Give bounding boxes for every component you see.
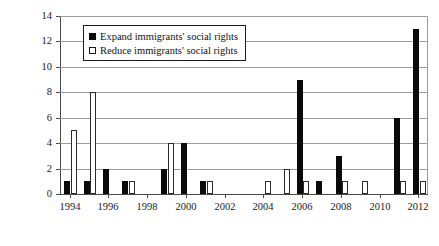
x-tick-label: 2006 [282,201,322,212]
x-tick-mark [341,194,342,198]
x-tick-mark [380,194,381,198]
x-tick-label: 1996 [88,201,128,212]
x-tick-mark [263,194,264,198]
bar-expand-2006 [297,80,303,194]
x-tick-label: 2004 [243,201,283,212]
y-tick-mark [56,67,60,68]
x-tick-label: 1998 [127,201,167,212]
y-tick-label: 4 [28,138,52,148]
x-tick-mark [70,194,71,198]
bar-reduce-2001 [207,181,213,194]
bar-reduce-1995 [90,92,96,194]
y-tick-label: 8 [28,87,52,97]
bar-expand-1994 [64,181,70,194]
legend-item-expand: Expand immigrants' social rights [89,29,238,43]
bar-expand-1999 [161,169,167,194]
chart-legend: Expand immigrants' social rights Reduce … [83,25,246,61]
y-tick-mark [56,16,60,17]
bar-expand-2008 [336,156,342,194]
bar-expand-2001 [200,181,206,194]
bar-reduce-2012 [420,181,426,194]
x-tick-mark [147,194,148,198]
legend-item-reduce: Reduce immigrants' social rights [89,43,238,57]
legend-label-expand: Expand immigrants' social rights [100,31,238,42]
bar-expand-2007 [316,181,322,194]
x-tick-label: 2002 [205,201,245,212]
x-tick-mark [225,194,226,198]
y-tick-mark [56,118,60,119]
x-axis-line [60,194,428,195]
y-tick-mark [56,169,60,170]
x-tick-label: 2008 [321,201,361,212]
filled-square-icon [89,33,96,40]
bar-reduce-1997 [129,181,135,194]
legend-label-reduce: Reduce immigrants' social rights [100,45,238,56]
y-tick-mark [56,194,60,195]
bar-reduce-1994 [71,130,77,194]
bar-expand-2011 [394,118,400,194]
y-tick-mark [56,143,60,144]
x-tick-mark [108,194,109,198]
bar-expand-1997 [122,181,128,194]
bar-reduce-2006 [303,181,309,194]
x-tick-mark [186,194,187,198]
bar-reduce-2005 [284,169,290,194]
x-tick-label: 2000 [166,201,206,212]
bar-expand-1995 [84,181,90,194]
bar-reduce-1999 [168,143,174,194]
x-tick-label: 1994 [50,201,90,212]
open-square-icon [89,47,96,54]
y-tick-mark [56,92,60,93]
bar-expand-2012 [413,29,419,194]
bar-expand-1996 [103,169,109,194]
bar-expand-2000 [181,143,187,194]
bar-reduce-2008 [342,181,348,194]
x-tick-label: 2010 [360,201,400,212]
bar-chart: 02468101214 1994199619982000200220042006… [0,0,439,246]
y-tick-label: 0 [28,189,52,199]
y-tick-label: 10 [28,62,52,72]
bar-reduce-2004 [265,181,271,194]
x-tick-label: 2012 [398,201,438,212]
x-tick-mark [418,194,419,198]
bar-reduce-2009 [362,181,368,194]
y-tick-label: 14 [28,11,52,21]
y-tick-label: 2 [28,164,52,174]
y-tick-label: 6 [28,113,52,123]
y-tick-mark [56,41,60,42]
y-tick-label: 12 [28,36,52,46]
bar-reduce-2011 [400,181,406,194]
x-tick-mark [302,194,303,198]
